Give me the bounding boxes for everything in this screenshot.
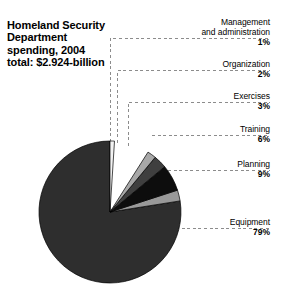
legend-label-management-line2: and administration [201, 27, 270, 37]
pie-chart-figure: Homeland Security Department spending, 2… [0, 0, 283, 296]
legend-item-training[interactable]: Training 6% [240, 124, 270, 145]
pie-slice-management[interactable] [110, 141, 115, 212]
legend-label-equipment: Equipment [230, 217, 270, 227]
legend-label-organization: Organization [222, 59, 270, 69]
legend-label-management-line1: Management [201, 17, 270, 27]
legend-label-exercises: Exercises [234, 91, 270, 101]
legend-item-organization[interactable]: Organization 2% [222, 59, 270, 80]
pie-slices [39, 141, 181, 283]
legend-value-organization: 2% [222, 69, 270, 80]
legend-item-planning[interactable]: Planning 9% [237, 159, 270, 180]
legend-label-planning: Planning [237, 159, 270, 169]
legend-value-training: 6% [240, 134, 270, 145]
legend-value-planning: 9% [237, 169, 270, 180]
legend-value-management: 1% [201, 37, 270, 48]
legend-value-exercises: 3% [234, 101, 270, 112]
legend-item-exercises[interactable]: Exercises 3% [234, 91, 270, 112]
legend-item-management[interactable]: Management and administration 1% [201, 17, 270, 48]
legend-value-equipment: 79% [230, 227, 270, 238]
legend-item-equipment[interactable]: Equipment 79% [230, 217, 270, 238]
legend-label-training: Training [240, 124, 270, 134]
